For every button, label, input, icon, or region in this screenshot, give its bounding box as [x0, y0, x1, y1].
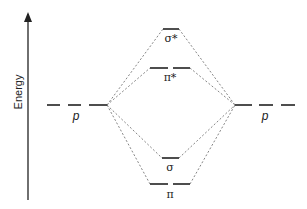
pi-orbital: π — [150, 184, 190, 201]
sigma-star-orbital: σ* — [163, 29, 179, 45]
correlation-line-right-pi-star — [190, 68, 235, 105]
correlation-line-right-sigma-star — [179, 29, 235, 105]
left-p-label: p — [72, 109, 80, 123]
energy-axis: Energy — [12, 12, 32, 200]
pi-star-label: π* — [164, 71, 177, 84]
pi-label: π — [166, 188, 173, 201]
mo-diagram: Energy p p σ* π* σ — [0, 0, 307, 209]
pi-star-orbital: π* — [150, 68, 190, 84]
right-p-label: p — [261, 109, 269, 123]
correlation-line-left-pi-star — [107, 68, 150, 105]
sigma-orbital: σ — [162, 158, 179, 174]
correlation-line-left-sigma — [107, 105, 162, 158]
correlation-line-right-sigma — [179, 105, 235, 158]
arrowhead-icon — [24, 12, 32, 22]
correlation-line-left-pi — [107, 105, 150, 184]
sigma-star-label: σ* — [164, 32, 178, 45]
sigma-label: σ — [166, 161, 174, 174]
correlation-line-right-pi — [190, 105, 235, 184]
energy-axis-label: Energy — [12, 74, 24, 109]
correlation-line-left-sigma-star — [107, 29, 163, 105]
